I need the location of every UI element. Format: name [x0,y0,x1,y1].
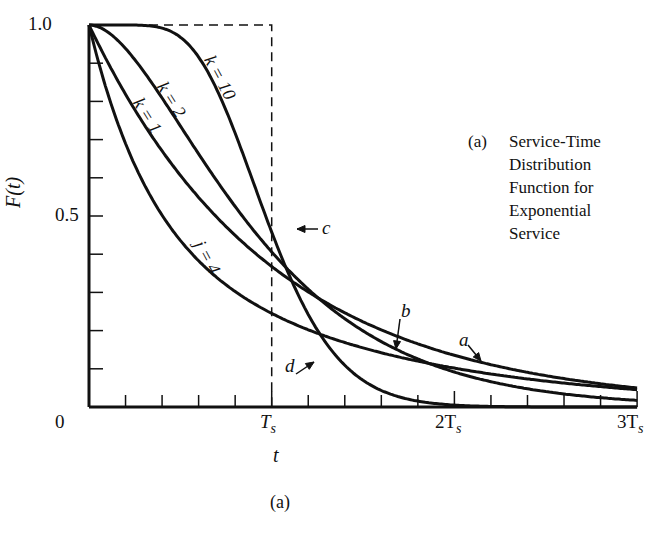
caption-line: Distribution [509,153,649,176]
x-tick-2ts: 2Ts [435,411,462,437]
caption-line: Exponential [509,199,649,222]
caption-line: Service [509,222,649,245]
x-tick-ts: Ts [260,411,276,437]
arrow-d-head [305,362,314,369]
x-tick-0: 0 [55,411,65,433]
marker-d: d [285,355,295,377]
series-deterministic [89,25,272,407]
x-tick-3ts: 3Ts [617,411,644,437]
y-axis-label: F(t) [2,177,25,208]
caption-tag: (a) [468,130,487,153]
y-tick-0-5: 0.5 [55,204,79,226]
chart-plot-area [0,0,672,533]
y-tick-1: 1.0 [28,13,52,35]
marker-c: c [322,217,330,239]
marker-b: b [401,300,411,322]
arrow-c-head [297,226,305,233]
x-axis-label: t [273,444,279,467]
caption-line: Function for [509,176,649,199]
figure-tag: (a) [270,492,290,513]
caption-body: Service-Time Distribution Function for E… [509,130,649,245]
marker-a: a [459,329,469,351]
caption-line: Service-Time [509,130,649,153]
